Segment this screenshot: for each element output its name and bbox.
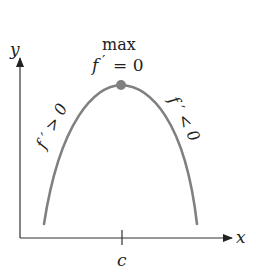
y-axis-label: y [9, 39, 20, 59]
right-slope-label: f ′ < 0 [164, 92, 204, 145]
top-eq-f: f [90, 55, 101, 75]
top-eq-prime: ′ [102, 52, 106, 70]
c-tick-label: c [117, 250, 127, 270]
top-eq-rest: = 0 [113, 55, 143, 75]
diagram-stage: y x c max f ′ = 0 f ′ > 0 f ′ < 0 [0, 0, 256, 280]
x-axis-label: x [236, 227, 246, 247]
max-point [116, 80, 126, 90]
local-maximum-diagram: y x c max f ′ = 0 f ′ > 0 f ′ < 0 [0, 0, 256, 280]
max-label: max [102, 35, 136, 54]
